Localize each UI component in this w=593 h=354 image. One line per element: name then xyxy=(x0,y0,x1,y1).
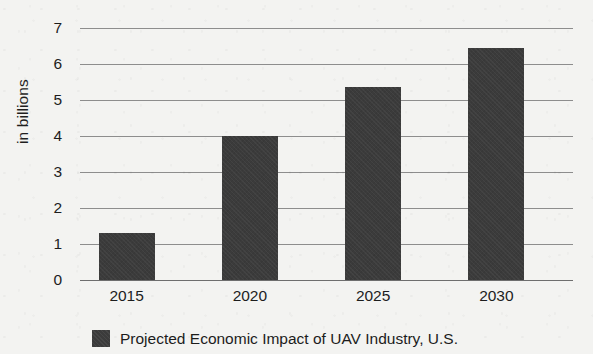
gridline-0 xyxy=(80,280,573,281)
chart-legend: Projected Economic Impact of UAV Industr… xyxy=(92,330,458,347)
bar-2015[interactable] xyxy=(99,233,155,280)
x-tick-label-2015: 2015 xyxy=(87,288,167,304)
y-tick-label-6: 6 xyxy=(0,56,62,72)
y-tick-label-4: 4 xyxy=(0,128,62,144)
bar-2025[interactable] xyxy=(345,87,401,280)
y-tick-label-5: 5 xyxy=(0,92,62,108)
y-tick-label-7: 7 xyxy=(0,20,62,36)
x-axis-tick-labels: 2015202020252030 xyxy=(80,288,573,310)
y-tick-label-3: 3 xyxy=(0,164,62,180)
x-tick-label-2030: 2030 xyxy=(456,288,536,304)
y-tick-label-1: 1 xyxy=(0,236,62,252)
bar-2020[interactable] xyxy=(222,136,278,280)
bar-2030[interactable] xyxy=(468,48,524,280)
y-axis-tick-labels: 01234567 xyxy=(0,28,68,280)
x-tick-label-2025: 2025 xyxy=(333,288,413,304)
legend-label-uav-impact: Projected Economic Impact of UAV Industr… xyxy=(120,331,458,347)
plot-area xyxy=(80,28,573,280)
x-tick-label-2020: 2020 xyxy=(210,288,290,304)
bar-chart: in billions 01234567 2015202020252030 Pr… xyxy=(0,0,593,354)
y-tick-label-0: 0 xyxy=(0,272,62,288)
legend-swatch-uav-impact xyxy=(92,330,110,347)
y-tick-label-2: 2 xyxy=(0,200,62,216)
gridline-7 xyxy=(80,28,573,29)
